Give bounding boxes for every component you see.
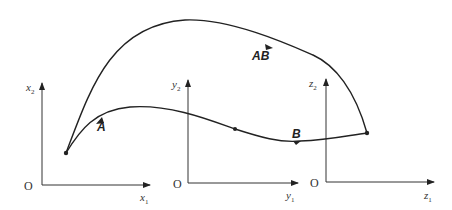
start-point <box>64 151 68 155</box>
axis-label-z2: z2 <box>309 78 317 92</box>
curve-ab <box>66 20 367 153</box>
origin-label-2: O <box>173 178 182 190</box>
end-point <box>365 131 369 135</box>
axis-label-x2: x2 <box>26 82 34 96</box>
curve-label-ab: AB <box>252 50 269 62</box>
axes-z <box>326 79 434 182</box>
origin-label-3: O <box>310 177 319 189</box>
mid-point <box>233 127 237 131</box>
axis-label-y1: y1 <box>286 190 294 204</box>
curve-label-a: A <box>97 121 106 133</box>
origin-label-1: O <box>24 180 33 192</box>
curve-a-b <box>66 107 367 153</box>
state-space-diagram: x2 O x1 y2 O y1 z2 O z1 A B AB <box>0 0 452 210</box>
diagram-canvas <box>0 0 452 210</box>
curve-label-b: B <box>292 128 301 140</box>
axis-label-x1: x1 <box>140 192 148 206</box>
axis-label-y2: y2 <box>172 79 180 93</box>
axis-label-z1: z1 <box>424 190 432 204</box>
arrow-b <box>293 141 301 145</box>
axes-x <box>42 83 150 185</box>
